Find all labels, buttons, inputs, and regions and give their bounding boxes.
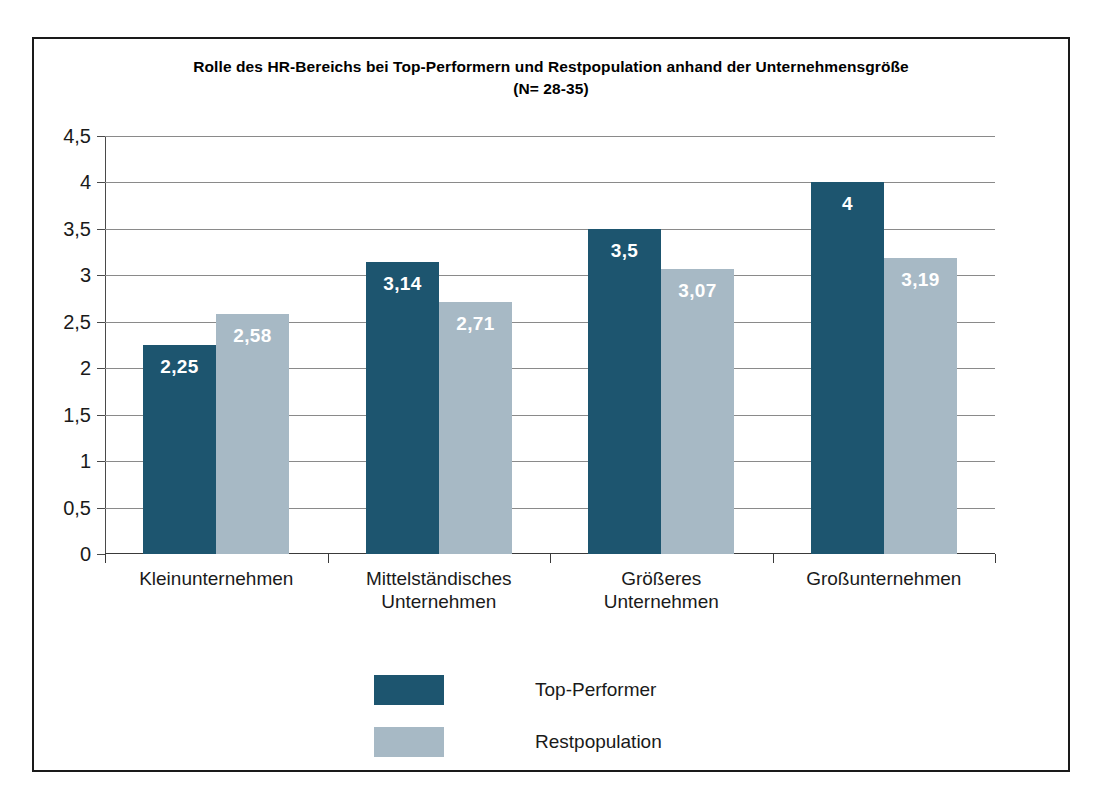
chart-title-main: Rolle des HR-Bereichs bei Top-Performern… <box>193 58 909 75</box>
legend-item-restpopulation[interactable]: Restpopulation <box>374 716 662 768</box>
category-label-3: GrößeresUnternehmen <box>550 567 773 613</box>
y-tick-mark <box>97 415 105 416</box>
chart-frame: Rolle des HR-Bereichs bei Top-Performern… <box>32 37 1070 772</box>
category-label-line: Kleinunternehmen <box>105 567 328 590</box>
category-label-line: Größeres <box>550 567 773 590</box>
gridline <box>105 136 995 137</box>
category-separator <box>550 554 551 563</box>
bar-top-performer-4[interactable]: 4 <box>811 182 884 554</box>
category-separator <box>328 554 329 563</box>
y-tick-mark <box>97 275 105 276</box>
bar-restpopulation-4[interactable]: 3,19 <box>884 258 957 554</box>
y-axis-tick-label: 3,5 <box>63 217 91 240</box>
bar-value-label: 4 <box>811 193 884 215</box>
y-tick-mark <box>97 136 105 137</box>
y-tick-mark <box>97 508 105 509</box>
y-axis-tick-label: 0,5 <box>63 496 91 519</box>
bar-top-performer-1[interactable]: 2,25 <box>143 345 216 554</box>
bar-value-label: 2,25 <box>143 356 216 378</box>
category-label-line: Unternehmen <box>550 590 773 613</box>
y-tick-mark <box>97 368 105 369</box>
bar-top-performer-3[interactable]: 3,5 <box>588 229 661 554</box>
y-axis-tick-label: 2,5 <box>63 310 91 333</box>
legend-swatch <box>374 727 444 757</box>
y-tick-mark <box>97 229 105 230</box>
category-label-1: Kleinunternehmen <box>105 567 328 590</box>
y-axis-line <box>105 136 106 554</box>
bar-value-label: 3,07 <box>661 280 734 302</box>
legend-swatch <box>374 675 444 705</box>
y-axis-tick-label: 3 <box>80 264 91 287</box>
bar-value-label: 2,58 <box>216 325 289 347</box>
y-axis-tick-label: 4,5 <box>63 125 91 148</box>
bar-restpopulation-2[interactable]: 2,71 <box>439 302 512 554</box>
bar-value-label: 3,19 <box>884 269 957 291</box>
bar-top-performer-2[interactable]: 3,14 <box>366 262 439 554</box>
legend-label: Top-Performer <box>535 679 656 701</box>
legend-item-top-performer[interactable]: Top-Performer <box>374 664 662 716</box>
category-separator <box>995 554 996 563</box>
bar-restpopulation-1[interactable]: 2,58 <box>216 314 289 554</box>
bar-value-label: 2,71 <box>439 313 512 335</box>
y-tick-mark <box>97 461 105 462</box>
chart-title: Rolle des HR-Bereichs bei Top-Performern… <box>34 56 1068 101</box>
category-label-line: Unternehmen <box>328 590 551 613</box>
category-label-4: Großunternehmen <box>773 567 996 590</box>
y-axis-tick-label: 1,5 <box>63 403 91 426</box>
chart-subtitle: (N= 28-35) <box>34 78 1068 100</box>
y-tick-mark <box>97 554 105 555</box>
bar-value-label: 3,5 <box>588 240 661 262</box>
category-label-2: MittelständischesUnternehmen <box>328 567 551 613</box>
bar-restpopulation-3[interactable]: 3,07 <box>661 269 734 554</box>
y-tick-mark <box>97 322 105 323</box>
plot-area: 4,543,532,521,510,50 2,252,583,142,713,5… <box>105 136 995 554</box>
category-label-line: Mittelständisches <box>328 567 551 590</box>
category-label-line: Großunternehmen <box>773 567 996 590</box>
category-separator <box>773 554 774 563</box>
legend-label: Restpopulation <box>535 731 662 753</box>
chart-legend: Top-PerformerRestpopulation <box>374 664 662 768</box>
category-separator <box>105 554 106 563</box>
y-axis-tick-label: 0 <box>80 543 91 566</box>
y-axis-tick-label: 4 <box>80 171 91 194</box>
bar-value-label: 3,14 <box>366 273 439 295</box>
y-axis-tick-label: 1 <box>80 450 91 473</box>
y-axis-tick-label: 2 <box>80 357 91 380</box>
y-tick-mark <box>97 182 105 183</box>
